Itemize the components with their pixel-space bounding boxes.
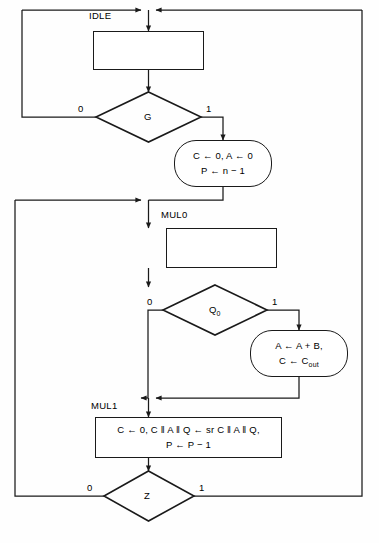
branch-label-z-one: 1 xyxy=(199,482,204,493)
branch-label-g-one: 1 xyxy=(206,103,211,114)
state-box-mul1-line2: P ← P − 1 xyxy=(166,438,211,452)
state-label-mul0: MUL0 xyxy=(161,209,188,220)
state-box-mul0[interactable] xyxy=(166,228,277,268)
conditional-box-init[interactable]: C ← 0, A ← 0 P ← n − 1 xyxy=(174,140,272,187)
state-box-idle[interactable] xyxy=(93,31,204,70)
conditional-box-add[interactable]: A ← A + B, C ← Cout xyxy=(250,330,348,377)
conditional-box-init-line2: P ← n − 1 xyxy=(201,164,245,178)
conditional-box-add-line2: C ← Cout xyxy=(279,354,319,368)
branch-label-q0-zero: 0 xyxy=(147,296,152,307)
state-box-mul1[interactable]: C ← 0, C ‖ A ‖ Q ← sr C ‖ A ‖ Q, P ← P −… xyxy=(95,417,282,458)
branch-label-z-zero: 0 xyxy=(87,482,92,493)
state-box-mul1-line1: C ← 0, C ‖ A ‖ Q ← sr C ‖ A ‖ Q, xyxy=(117,423,259,437)
conditional-box-add-line1: A ← A + B, xyxy=(275,339,323,353)
flow-connector-lines xyxy=(0,0,379,543)
conditional-box-add-line2-text: C ← C xyxy=(279,355,309,366)
state-label-idle: IDLE xyxy=(89,10,111,21)
asm-chart-diagram: IDLE G 0 1 C ← 0, A ← 0 P ← n − 1 MUL0 Q… xyxy=(0,0,379,543)
conditional-box-add-line2-subscript: out xyxy=(309,360,319,367)
conditional-box-init-line1: C ← 0, A ← 0 xyxy=(193,149,253,163)
state-label-mul1: MUL1 xyxy=(91,400,118,411)
branch-label-q0-one: 1 xyxy=(272,296,277,307)
branch-label-g-zero: 0 xyxy=(78,103,83,114)
